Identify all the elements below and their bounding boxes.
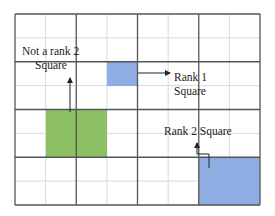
not-rank-2-label-line2: Square	[35, 59, 67, 72]
rank-1-label-line1: Rank 1	[174, 71, 207, 83]
quadtree-diagram: Not a rank 2 Square Rank 1 Square Rank 2…	[0, 0, 275, 216]
rank-1-square	[107, 62, 138, 86]
rank-2-square	[199, 157, 260, 205]
rank-2-label: Rank 2 Square	[164, 125, 232, 138]
rank-1-label-line2: Square	[174, 85, 206, 98]
not-rank-2-label-line1: Not a rank 2	[22, 45, 79, 57]
